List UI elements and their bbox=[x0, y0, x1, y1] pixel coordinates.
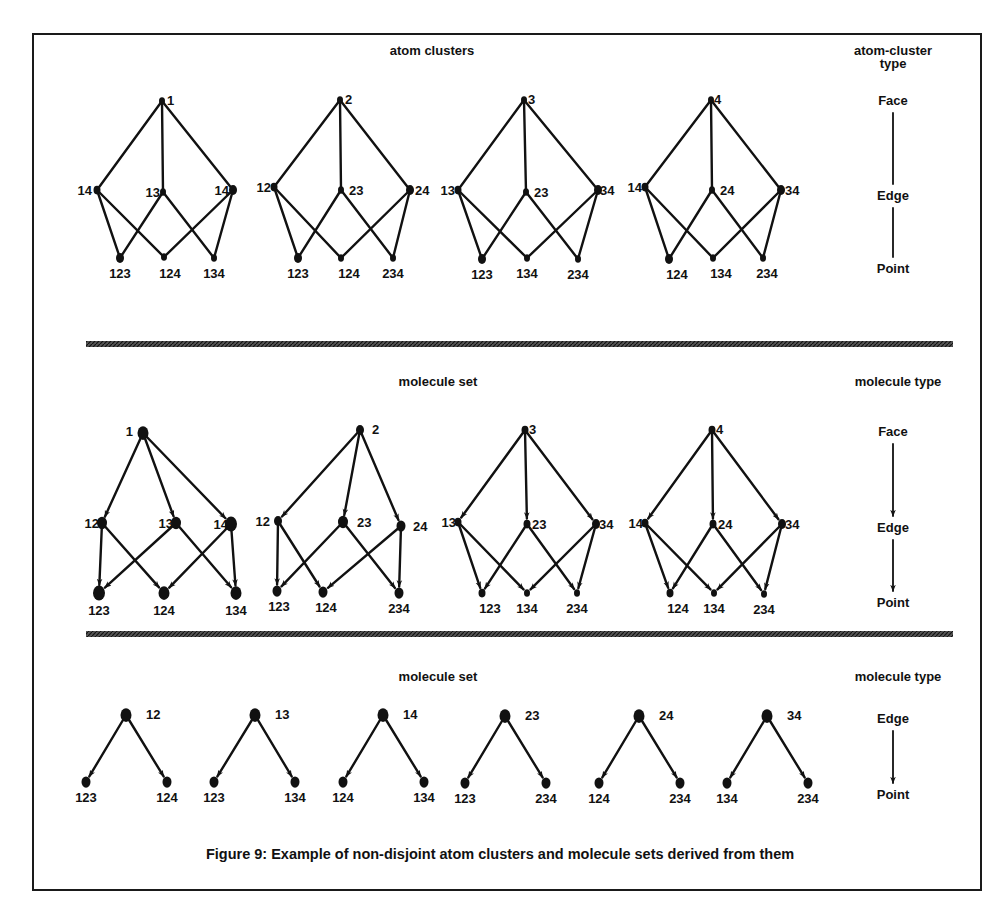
legend-level-point: Point bbox=[877, 261, 910, 276]
directed-edge bbox=[126, 715, 164, 776]
node-label: 12 bbox=[256, 514, 270, 529]
directed-edge bbox=[346, 715, 383, 776]
lattice-graph: 2122324123124234 bbox=[256, 422, 429, 616]
node-label: 123 bbox=[471, 267, 493, 282]
directed-edge bbox=[525, 430, 592, 519]
node-dot-icon bbox=[676, 777, 685, 788]
directed-edge bbox=[461, 430, 525, 518]
edge bbox=[393, 190, 410, 258]
node-dot-icon bbox=[93, 586, 105, 601]
node-dot-icon bbox=[163, 776, 172, 787]
node-dot-icon bbox=[250, 708, 261, 722]
directed-edge bbox=[525, 430, 527, 519]
node-label: 134 bbox=[703, 601, 725, 616]
node-dot-icon bbox=[709, 186, 715, 194]
node-dot-icon bbox=[356, 425, 364, 435]
edge bbox=[526, 192, 578, 259]
node-label: 12 bbox=[146, 707, 160, 722]
node-label: 1 bbox=[167, 93, 174, 108]
node-label: 3 bbox=[529, 422, 536, 437]
lattice-graph: 3132334123134234 bbox=[442, 422, 615, 616]
node-label: 4 bbox=[714, 92, 722, 107]
edge bbox=[341, 190, 393, 258]
section-title: molecule set bbox=[399, 669, 478, 684]
node-label: 3 bbox=[528, 92, 535, 107]
directed-edge bbox=[505, 716, 543, 777]
directed-edge bbox=[255, 715, 292, 776]
node-label: 14 bbox=[214, 517, 229, 532]
section-molecule-set-edge: molecule setmolecule typeEdgePoint121231… bbox=[75, 669, 941, 806]
directed-edge bbox=[105, 433, 143, 517]
node-dot-icon bbox=[455, 186, 462, 195]
type-legend: FaceEdgePoint bbox=[877, 424, 910, 610]
node-dot-icon bbox=[390, 254, 396, 262]
node-label: 14 bbox=[628, 180, 643, 195]
node-label: 14 bbox=[215, 183, 230, 198]
node-label: 234 bbox=[797, 791, 819, 806]
node-dot-icon bbox=[723, 777, 732, 788]
lattice-graph: 4142434124134234 bbox=[629, 422, 801, 617]
node-label: 34 bbox=[600, 183, 615, 198]
edge bbox=[711, 100, 781, 190]
node-dot-icon bbox=[231, 586, 242, 600]
type-header: type bbox=[880, 56, 907, 71]
node-dot-icon bbox=[575, 255, 581, 263]
directed-edge bbox=[602, 716, 639, 777]
directed-edge bbox=[383, 715, 421, 776]
node-label: 124 bbox=[153, 603, 175, 618]
edge bbox=[162, 101, 163, 192]
node-dot-icon bbox=[94, 186, 101, 195]
node-dot-icon bbox=[642, 183, 649, 192]
node-label: 134 bbox=[203, 266, 225, 281]
edge bbox=[341, 190, 410, 258]
node-label: 123 bbox=[479, 601, 501, 616]
section-title: molecule set bbox=[399, 374, 478, 389]
directed-edge bbox=[648, 430, 712, 519]
node-label: 123 bbox=[268, 599, 290, 614]
node-label: 124 bbox=[159, 266, 181, 281]
node-label: 4 bbox=[716, 422, 724, 437]
node-dot-icon bbox=[294, 253, 302, 263]
type-header: molecule type bbox=[855, 669, 942, 684]
directed-edge bbox=[527, 524, 574, 589]
node-dot-icon bbox=[229, 185, 237, 195]
directed-edge bbox=[468, 716, 505, 777]
node-label: 123 bbox=[109, 266, 131, 281]
lattice-graph: 2122324123124234 bbox=[257, 92, 431, 281]
node-dot-icon bbox=[710, 254, 716, 262]
edge bbox=[524, 100, 598, 190]
node-label: 24 bbox=[415, 183, 430, 198]
lattice-graph: 4142434124134234 bbox=[628, 92, 801, 282]
node-dot-icon bbox=[210, 776, 219, 787]
node-label: 234 bbox=[566, 601, 588, 616]
node-dot-icon bbox=[273, 585, 282, 596]
node-label: 13 bbox=[275, 707, 289, 722]
node-dot-icon bbox=[710, 520, 717, 529]
directed-edge bbox=[343, 522, 395, 588]
section-molecule-set-face: molecule setmolecule typeFaceEdgePoint11… bbox=[85, 374, 942, 618]
edge bbox=[340, 100, 410, 190]
node-dot-icon bbox=[339, 776, 348, 787]
node-label: 2 bbox=[345, 92, 352, 107]
node-dot-icon bbox=[777, 185, 785, 195]
node-label: 124 bbox=[338, 266, 360, 281]
directed-edge bbox=[767, 716, 805, 777]
directed-edge bbox=[713, 524, 761, 590]
directed-edge bbox=[712, 430, 778, 519]
node-label: 123 bbox=[287, 266, 309, 281]
node-dot-icon bbox=[761, 590, 767, 598]
node-dot-icon bbox=[159, 97, 165, 105]
type-header: molecule type bbox=[855, 374, 942, 389]
directed-edge bbox=[282, 430, 360, 517]
node-label: 124 bbox=[156, 790, 178, 805]
directed-edge bbox=[712, 430, 713, 519]
node-label: 134 bbox=[716, 791, 738, 806]
edge bbox=[274, 187, 341, 258]
node-dot-icon bbox=[634, 709, 645, 723]
section-separators bbox=[86, 341, 953, 637]
node-dot-icon bbox=[524, 589, 530, 597]
node-dot-icon bbox=[211, 254, 217, 262]
node-label: 234 bbox=[535, 791, 557, 806]
node-label: 13 bbox=[146, 185, 160, 200]
node-label: 24 bbox=[718, 517, 733, 532]
